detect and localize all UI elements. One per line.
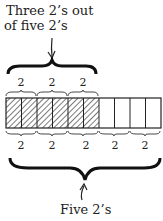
bottom-group-value: 2 — [13, 139, 29, 152]
fraction-bar-diagram — [0, 0, 163, 221]
bottom-group-value: 2 — [78, 139, 94, 152]
bottom-group-value: 2 — [107, 139, 123, 152]
bottom-group-value: 2 — [44, 139, 60, 152]
top-group-value: 2 — [13, 76, 29, 89]
top-group-value: 2 — [44, 76, 60, 89]
bottom-group-value: 2 — [137, 139, 153, 152]
top-group-value: 2 — [75, 76, 91, 89]
bottom-label: Five 2’s — [60, 202, 111, 217]
fraction-bar — [6, 98, 161, 128]
